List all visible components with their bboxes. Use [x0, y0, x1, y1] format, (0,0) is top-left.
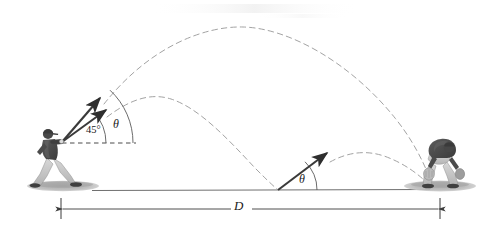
angle-label-theta-launch: θ — [113, 117, 119, 132]
trajectory-arc-low-icon — [107, 97, 277, 189]
ground-line-icon — [92, 190, 430, 191]
scan-artifact — [150, 4, 360, 18]
velocity-arrow-theta-icon — [62, 98, 100, 142]
trajectory-arc-high-icon — [104, 27, 431, 182]
projectile-motion-figure: 45° θ θ D — [0, 0, 478, 228]
baseball-thrower-icon — [30, 129, 83, 188]
distance-label-D: D — [234, 198, 243, 214]
trajectory-arc-bounce-icon — [330, 153, 430, 186]
angle-label-theta-bounce: θ — [299, 172, 305, 187]
fielder-ground-patch — [404, 181, 476, 192]
dimension-line-D-icon — [61, 198, 440, 219]
figure-canvas — [0, 0, 478, 228]
angle-label-45: 45° — [86, 124, 101, 135]
